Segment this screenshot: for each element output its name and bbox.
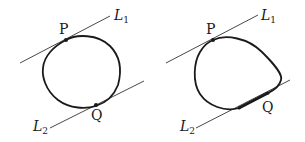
point-p-marker: [64, 38, 68, 42]
diagram-canvas: P Q L1 L2 P Q L1 L2: [0, 0, 305, 142]
point-p-label: P: [59, 21, 68, 37]
line-l1-label: L1: [113, 7, 129, 25]
right-figure: P Q L1 L2: [166, 7, 290, 136]
convex-curve: [43, 36, 120, 108]
left-figure: P Q L1 L2: [20, 7, 144, 136]
line-l1-label: L1: [260, 7, 276, 25]
point-p-marker: [211, 38, 215, 42]
point-q-label: Q: [262, 99, 273, 115]
line-l2-label: L2: [179, 118, 195, 136]
point-p-label: P: [206, 21, 215, 37]
segment-start-marker: [237, 106, 240, 109]
line-l2-label: L2: [32, 118, 48, 136]
point-q-marker: [266, 91, 269, 94]
point-q-label: Q: [91, 107, 102, 123]
